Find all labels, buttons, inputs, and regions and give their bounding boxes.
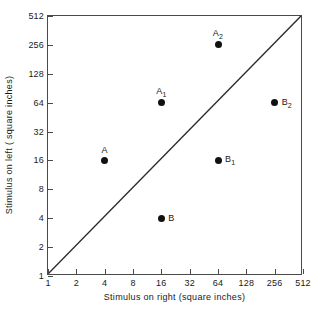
data-point: [158, 215, 165, 222]
x-axis-tick: [246, 269, 247, 274]
y-axis-tick-label: 512: [28, 11, 44, 21]
y-axis-tick: [48, 132, 53, 133]
x-axis-tick: [48, 269, 49, 274]
y-axis-tick-label: 4: [39, 213, 44, 223]
y-axis-tick: [48, 103, 53, 104]
y-axis-tick: [48, 247, 53, 248]
y-axis-tick: [48, 189, 53, 190]
x-axis-tick: [133, 269, 134, 274]
y-axis-tick: [48, 276, 53, 277]
chart-title: [0, 0, 322, 1]
data-point: [215, 41, 222, 48]
x-axis-tick: [303, 269, 304, 274]
x-axis-tick: [190, 269, 191, 274]
data-point: [101, 157, 108, 164]
y-axis-tick: [48, 218, 53, 219]
y-axis-tick: [48, 45, 53, 46]
y-axis-title-text: Stimulus on left ( square inches): [4, 76, 14, 214]
plot-area: 12481632641282565121248163264128256512AA…: [48, 16, 301, 274]
x-axis-tick-label: 2: [74, 278, 79, 288]
x-axis-tick: [161, 269, 162, 274]
plot-frame: 12481632641282565121248163264128256512AA…: [47, 15, 302, 275]
x-axis-tick-label: 32: [184, 278, 194, 288]
x-axis-tick: [76, 269, 77, 274]
x-axis-tick-label: 16: [156, 278, 166, 288]
data-point-label: A: [102, 145, 108, 155]
y-axis-tick-label: 128: [28, 69, 44, 79]
x-axis-tick-label: 256: [267, 278, 283, 288]
data-point-label: B2: [282, 97, 292, 109]
y-axis-tick-label: 32: [34, 127, 44, 137]
y-axis-tick-label: 8: [39, 184, 44, 194]
y-axis-tick-label: 16: [34, 155, 44, 165]
data-point: [271, 99, 278, 106]
y-axis-tick: [48, 16, 53, 17]
x-axis-tick: [105, 269, 106, 274]
data-point-label: B1: [225, 155, 235, 167]
y-axis-tick: [48, 74, 53, 75]
x-axis-tick-label: 1: [45, 278, 50, 288]
data-point-label: B: [168, 213, 174, 223]
data-point-label: A2: [213, 28, 223, 40]
y-axis-tick-label: 64: [34, 98, 44, 108]
y-axis-title: Stimulus on left ( square inches): [3, 15, 15, 275]
x-axis-tick: [275, 269, 276, 274]
x-axis-title: Stimulus on right (square inches): [47, 292, 302, 302]
x-axis-tick-label: 128: [239, 278, 255, 288]
x-axis-tick: [218, 269, 219, 274]
y-axis-tick-label: 256: [28, 40, 44, 50]
y-axis-tick-label: 1: [39, 271, 44, 281]
x-axis-tick-label: 64: [213, 278, 223, 288]
identity-line: [48, 16, 301, 274]
y-axis-tick-label: 2: [39, 242, 44, 252]
x-axis-tick-label: 4: [102, 278, 107, 288]
x-axis-tick-label: 512: [295, 278, 311, 288]
data-point-label: A1: [156, 86, 166, 98]
data-point: [158, 99, 165, 106]
x-axis-tick-label: 8: [130, 278, 135, 288]
y-axis-tick: [48, 160, 53, 161]
data-point: [215, 157, 222, 164]
